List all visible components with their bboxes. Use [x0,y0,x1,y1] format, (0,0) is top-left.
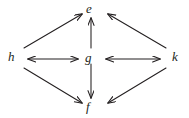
node-label-g: g [85,51,92,64]
edge-k-to-e [108,14,166,48]
edge-h-to-e [24,14,82,48]
diagram-canvas: e g f h k [0,0,189,118]
node-label-h: h [8,50,15,63]
node-label-k: k [172,50,178,63]
edge-h-to-f [24,68,82,103]
node-label-e: e [86,2,92,15]
node-label-f: f [86,100,90,113]
diagram-edges [0,0,189,118]
edge-k-to-f [108,68,166,103]
